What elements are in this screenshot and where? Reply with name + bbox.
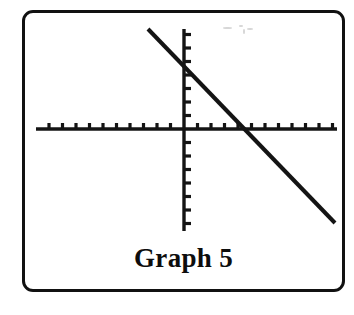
graph-caption: Graph 5 (25, 245, 342, 272)
graph-figure-card: Graph 5 (22, 10, 345, 292)
screenshot-root: Graph 5 (0, 0, 354, 315)
x-axis-group (36, 123, 337, 129)
